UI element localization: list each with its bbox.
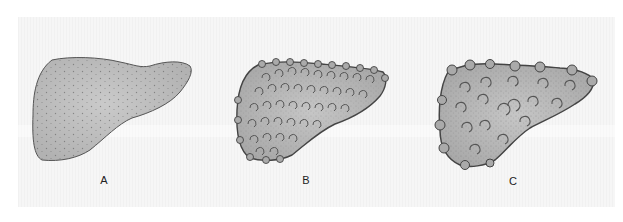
liver-illustrations [0, 0, 623, 222]
liver-c-macronodular [435, 60, 597, 170]
panel-label-c: C [503, 175, 523, 187]
liver-b-micronodular [235, 59, 389, 164]
panel-label-b: B [296, 174, 316, 186]
liver-a-smooth [33, 58, 192, 161]
panel-label-a: A [94, 174, 114, 186]
